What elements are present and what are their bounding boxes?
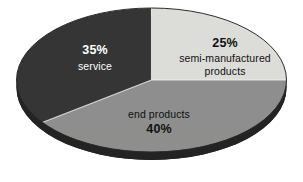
pie-label-semi-manufactured-products: 25% semi-manufactured products [160, 36, 290, 78]
pie-label-semi-name-line2: products [160, 65, 290, 78]
pie-label-service-percent: 35% [53, 43, 137, 58]
pie-label-service-name: service [53, 60, 137, 72]
pie-chart: 25% semi-manufactured products 35% servi… [0, 0, 303, 182]
pie-label-semi-name-line1: semi-manufactured [160, 52, 290, 65]
pie-label-service: 35% service [53, 43, 137, 72]
pie-label-end-products-name: end products [104, 108, 214, 120]
pie-label-end-products-percent: 40% [104, 122, 214, 137]
pie-label-semi-percent: 25% [160, 36, 290, 51]
pie-label-end-products: end products 40% [104, 108, 214, 137]
pie-chart-graphic [0, 0, 303, 182]
